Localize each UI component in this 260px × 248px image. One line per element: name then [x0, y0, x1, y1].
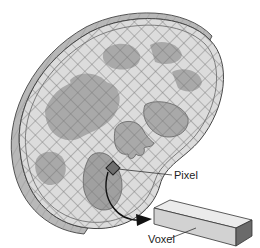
pixel-grid [19, 19, 223, 229]
ct-slice-diagram [0, 0, 260, 248]
slice-face [19, 19, 223, 229]
pixel-label: Pixel [174, 170, 198, 181]
voxel-label: Voxel [148, 234, 175, 245]
arrow-head-icon [136, 214, 152, 226]
